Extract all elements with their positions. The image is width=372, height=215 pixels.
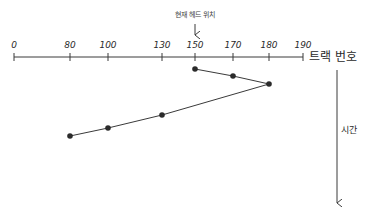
time-label: 시간 xyxy=(341,125,357,135)
axis-title: 트랙 번호 xyxy=(309,50,357,64)
seek-point xyxy=(159,112,165,118)
seek-point xyxy=(230,73,236,79)
tick-label: 190 xyxy=(294,40,311,50)
tick-label: 100 xyxy=(99,40,116,50)
tick-label: 80 xyxy=(64,40,76,50)
tick-label: 180 xyxy=(260,40,277,50)
tick-label: 170 xyxy=(224,40,241,50)
tick-label: 130 xyxy=(153,40,170,50)
seek-path-line xyxy=(70,69,269,136)
seek-point xyxy=(192,66,198,72)
seek-path xyxy=(67,66,272,139)
seek-point xyxy=(67,133,73,139)
track-axis: 080100130150170180190 xyxy=(11,40,312,61)
current-head-label: 현재 헤드 위치 xyxy=(175,10,215,19)
disk-scheduling-diagram: 현재 헤드 위치 080100130150170180190 트랙 번호 시간 xyxy=(0,0,372,215)
seek-point xyxy=(266,81,272,87)
tick-label: 150 xyxy=(186,40,203,50)
seek-point xyxy=(105,125,111,131)
tick-label: 0 xyxy=(11,40,17,50)
axis-ticks: 080100130150170180190 xyxy=(11,40,312,61)
